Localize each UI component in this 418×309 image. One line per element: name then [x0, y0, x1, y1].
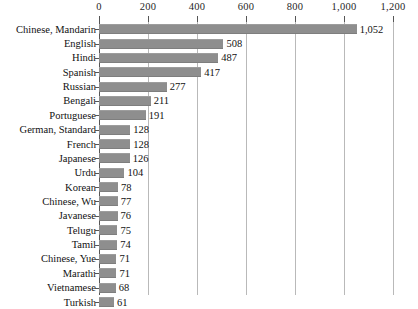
category-label: Marathi	[0, 268, 96, 279]
category-label: Japanese	[0, 153, 96, 164]
bar-value-label: 191	[149, 110, 165, 121]
bar-value-label: 77	[121, 196, 132, 207]
bar-row: Javanese76	[0, 209, 418, 223]
bar	[99, 268, 116, 278]
bar-row: Korean78	[0, 180, 418, 194]
bar-value-label: 71	[119, 253, 130, 264]
bar	[99, 254, 116, 264]
bar	[99, 225, 117, 235]
x-tick-label: 600	[238, 1, 255, 12]
bar-track: 128	[99, 137, 418, 151]
bar-value-label: 128	[133, 124, 149, 135]
bar-value-label: 104	[127, 167, 143, 178]
bar-row: Russian277	[0, 79, 418, 93]
category-label: Tamil	[0, 239, 96, 250]
bar-track: 78	[99, 180, 418, 194]
x-tick-label: 1,000	[331, 1, 356, 12]
x-axis-tick-labels: 02004006008001,0001,200	[0, 0, 418, 22]
bar-row: French128	[0, 137, 418, 151]
bar-track: 76	[99, 209, 418, 223]
bar-row: Chinese, Wu77	[0, 194, 418, 208]
bar-value-label: 78	[121, 182, 132, 193]
bar-row: Tamil74	[0, 237, 418, 251]
bar-row: Vietnamese68	[0, 280, 418, 294]
bar	[99, 196, 118, 206]
bar-track: 104	[99, 166, 418, 180]
bar-row: English508	[0, 36, 418, 50]
bar-value-label: 128	[133, 139, 149, 150]
category-label: Chinese, Wu	[0, 196, 96, 207]
x-tick-label: 1,200	[380, 1, 405, 12]
bar-value-label: 211	[154, 95, 169, 106]
x-tick-label: 0	[96, 1, 102, 12]
x-tick-label: 800	[287, 1, 304, 12]
category-label: Bengali	[0, 95, 96, 106]
bar-track: 61	[99, 295, 418, 309]
bar-track: 277	[99, 79, 418, 93]
bar-track: 77	[99, 194, 418, 208]
category-label: Urdu	[0, 167, 96, 178]
bar-track: 74	[99, 237, 418, 251]
bar-row: Chinese, Mandarin1,052	[0, 22, 418, 36]
bar	[99, 139, 130, 149]
bar-track: 71	[99, 266, 418, 280]
bar	[99, 67, 201, 77]
bar-row: Bengali211	[0, 94, 418, 108]
bar-track: 1,052	[99, 22, 418, 36]
bar-track: 487	[99, 51, 418, 65]
bar-track: 128	[99, 123, 418, 137]
bar-value-label: 277	[170, 81, 186, 92]
bar-track: 126	[99, 151, 418, 165]
bar	[99, 211, 118, 221]
bar-value-label: 74	[120, 239, 131, 250]
bar-value-label: 68	[119, 282, 130, 293]
bar-track: 71	[99, 252, 418, 266]
bar	[99, 153, 130, 163]
category-label: Javanese	[0, 210, 96, 221]
category-label: Telugu	[0, 225, 96, 236]
bar	[99, 283, 116, 293]
category-label: Turkish	[0, 297, 96, 308]
bar-value-label: 126	[133, 153, 149, 164]
bar-value-label: 508	[226, 38, 242, 49]
bar-value-label: 417	[204, 67, 220, 78]
bar-row: Marathi71	[0, 266, 418, 280]
x-tick-label: 400	[189, 1, 206, 12]
bar	[99, 53, 218, 63]
bar-value-label: 1,052	[360, 24, 384, 35]
category-label: Vietnamese	[0, 282, 96, 293]
category-label: German, Standard	[0, 124, 96, 135]
category-label: Korean	[0, 182, 96, 193]
bar	[99, 110, 146, 120]
bar-track: 68	[99, 280, 418, 294]
bar-row: Hindi487	[0, 51, 418, 65]
category-label: Portuguese	[0, 110, 96, 121]
bar-value-label: 75	[120, 225, 131, 236]
category-label: Chinese, Mandarin	[0, 24, 96, 35]
bar-value-label: 487	[221, 52, 237, 63]
bar-row: Japanese126	[0, 151, 418, 165]
category-label: English	[0, 38, 96, 49]
bar-value-label: 61	[117, 297, 128, 308]
bar-row: Spanish417	[0, 65, 418, 79]
bar-track: 191	[99, 108, 418, 122]
bar-track: 417	[99, 65, 418, 79]
bar	[99, 240, 117, 250]
bar	[99, 96, 151, 106]
category-label: French	[0, 139, 96, 150]
category-label: Spanish	[0, 67, 96, 78]
bar-value-label: 76	[121, 210, 132, 221]
bar-value-label: 71	[119, 268, 130, 279]
bar-track: 508	[99, 36, 418, 50]
bar-track: 211	[99, 94, 418, 108]
bar-row: German, Standard128	[0, 123, 418, 137]
bar-track: 75	[99, 223, 418, 237]
bar-row: Turkish61	[0, 295, 418, 309]
category-label: Russian	[0, 81, 96, 92]
category-label: Chinese, Yue	[0, 253, 96, 264]
bar-row: Telugu75	[0, 223, 418, 237]
bar	[99, 39, 223, 49]
bar	[99, 182, 118, 192]
bar	[99, 168, 124, 178]
bar	[99, 297, 114, 307]
